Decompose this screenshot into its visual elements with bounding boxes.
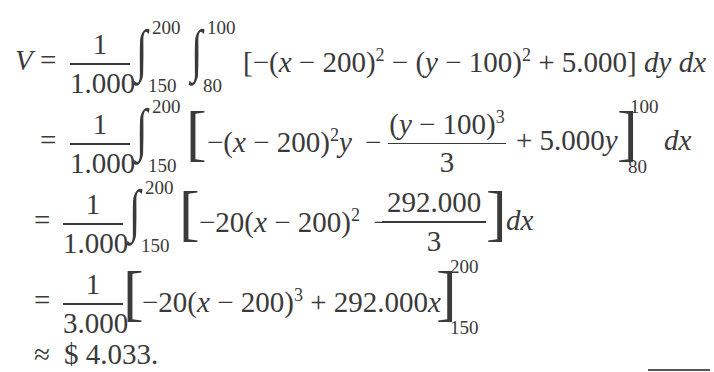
var-x: x <box>197 286 210 318</box>
eval-lower-limit: 150 <box>450 318 479 337</box>
denominator: 3 <box>388 148 506 177</box>
numerator: 292.000 <box>382 188 486 217</box>
denominator: 3 <box>382 227 486 256</box>
lhs-variable: V <box>15 46 33 75</box>
eval-lower-limit: 80 <box>628 157 647 176</box>
text: + 5.000y <box>516 126 618 155</box>
fraction: 1 1.000 <box>70 110 130 178</box>
numerator: 1 <box>70 30 130 59</box>
approx-sign: ≈ <box>34 340 50 369</box>
text: − 200) <box>267 206 351 238</box>
integral-upper-limit: 200 <box>152 18 181 37</box>
numerator: 1 <box>70 110 130 139</box>
open-bracket: [ <box>243 46 253 78</box>
var-y: y <box>339 126 352 158</box>
open-bracket: [ <box>179 182 200 244</box>
numerator: 1 <box>63 190 123 219</box>
var-y: y <box>425 46 438 78</box>
integral-sign: ∫ <box>129 182 140 240</box>
var-x: x <box>233 126 246 158</box>
exponent: 2 <box>330 125 339 145</box>
text: −20( <box>199 206 254 238</box>
exponent: 2 <box>351 205 360 225</box>
equals-sign: = <box>40 126 56 155</box>
text: + 292.000 <box>303 286 428 318</box>
integral-upper-limit: 200 <box>152 97 181 116</box>
close-bracket: ] <box>627 46 637 78</box>
numerator: 1 <box>63 270 123 299</box>
fraction-bar <box>70 143 130 145</box>
integrand: [−(x − 200)2 − (y − 100)2 + 5.000] dy dx <box>243 46 706 77</box>
equals-sign: = <box>40 46 56 75</box>
integrand: −20(x − 200)2 − <box>199 206 390 237</box>
fraction-bar <box>63 223 123 225</box>
inner-fraction: (y − 100)3 3 <box>388 108 506 177</box>
exponent: 3 <box>294 285 303 305</box>
text: − 200) <box>210 286 294 318</box>
integral-sign: ∫ <box>136 101 147 159</box>
var-x: x <box>279 46 292 78</box>
integral-lower-limit: 150 <box>148 156 177 175</box>
fraction-bar <box>70 63 130 65</box>
text: −20( <box>142 286 197 318</box>
close-bracket: ] <box>486 182 507 244</box>
denominator: 1.000 <box>70 69 130 98</box>
text: + 5.000 <box>516 124 605 156</box>
text: − ( <box>385 46 426 78</box>
differential: dy dx <box>644 46 706 78</box>
integral-sign: ∫ <box>191 22 202 80</box>
integral-sign: ∫ <box>136 22 147 80</box>
minus-sign: − <box>365 126 381 158</box>
text: − 100) <box>412 108 496 140</box>
text: + 5.000 <box>531 46 627 78</box>
fraction-bar <box>382 221 486 223</box>
fraction-bar <box>388 143 506 145</box>
open-bracket: [ <box>186 102 207 164</box>
integral-lower-limit: 150 <box>148 76 177 95</box>
var-y: y <box>399 108 412 140</box>
var-x: x <box>254 206 267 238</box>
antiderivative-x: −20(x − 200)3 + 292.000x <box>142 286 441 317</box>
exponent: 2 <box>376 45 385 65</box>
fraction: 1 1.000 <box>70 30 130 98</box>
exponent: 3 <box>496 107 505 127</box>
integral-upper-limit: 200 <box>145 178 174 197</box>
integral-lower-limit: 80 <box>203 76 222 95</box>
eval-upper-limit: 100 <box>630 97 659 116</box>
var-y: y <box>605 124 618 156</box>
equals-sign: = <box>34 206 50 235</box>
differential: dx <box>664 126 691 155</box>
integral-lower-limit: 150 <box>141 236 170 255</box>
open-bracket: [ <box>123 262 144 324</box>
end-of-solution-rule <box>648 369 710 371</box>
text: ( <box>389 108 399 140</box>
numerator: (y − 100)3 <box>388 108 506 139</box>
denominator: 1.000 <box>63 229 123 258</box>
exponent: 2 <box>522 45 531 65</box>
result-value: $ 4.033. <box>64 340 158 369</box>
eval-upper-limit: 200 <box>450 257 479 276</box>
fraction-bar <box>63 303 123 305</box>
denominator: 1.000 <box>70 149 130 178</box>
denominator: 3.000 <box>63 309 123 338</box>
integral-upper-limit: 100 <box>207 18 236 37</box>
fraction: 1 3.000 <box>63 270 123 338</box>
text: − 200) <box>292 46 376 78</box>
equals-sign: = <box>34 286 50 315</box>
inner-fraction: 292.000 3 <box>382 188 486 256</box>
text: −( <box>207 126 233 158</box>
text: − 100) <box>438 46 522 78</box>
antiderivative-y: −(x − 200)2y − <box>207 126 381 157</box>
text: −( <box>253 46 279 78</box>
fraction: 1 1.000 <box>63 190 123 258</box>
text: − 200) <box>246 126 330 158</box>
differential: dx <box>506 206 533 235</box>
